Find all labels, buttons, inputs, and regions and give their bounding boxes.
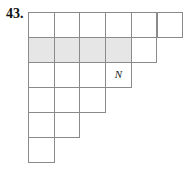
grid-cell	[79, 12, 106, 38]
grid-cell	[28, 87, 55, 113]
grid-cell	[79, 62, 106, 88]
grid-cell	[131, 12, 158, 38]
grid-cell	[157, 12, 184, 38]
cell-label: N	[106, 68, 131, 80]
grid-cell	[79, 37, 106, 63]
grid-cell	[28, 12, 55, 38]
grid-cell	[54, 12, 81, 38]
grid-cell	[28, 62, 55, 88]
grid-cell	[105, 37, 132, 63]
grid-cell	[28, 137, 55, 163]
grid-cell: N	[105, 62, 132, 88]
grid-cell	[28, 112, 55, 138]
grid-cell	[54, 112, 81, 138]
grid-cell	[54, 62, 81, 88]
problem-number: 43.	[6, 6, 24, 22]
grid-cell	[28, 37, 55, 63]
grid-cell	[131, 37, 158, 63]
grid-cell	[54, 37, 81, 63]
grid-cell	[105, 12, 132, 38]
grid-cell	[79, 87, 106, 113]
grid-cell	[54, 87, 81, 113]
